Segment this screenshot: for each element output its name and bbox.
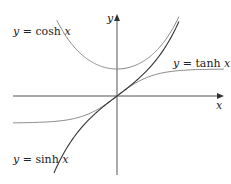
tanh-label: y = tanh x bbox=[172, 57, 231, 70]
y-axis-arrow-icon bbox=[114, 14, 120, 21]
sinh-label: y = sinh x bbox=[12, 153, 69, 166]
chart: y = cosh x y = tanh x y = sinh x x y bbox=[0, 0, 231, 184]
y-axis-label: y bbox=[106, 12, 114, 25]
sinh-curve bbox=[54, 21, 179, 173]
cosh-label: y = cosh x bbox=[12, 25, 71, 38]
x-axis-label: x bbox=[216, 99, 223, 112]
cosh-curve bbox=[57, 17, 179, 69]
